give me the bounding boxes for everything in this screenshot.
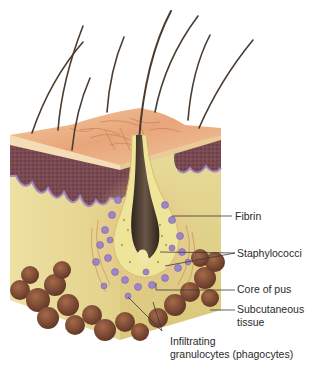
label-subcutaneous-line1: Subcutaneous — [237, 303, 304, 315]
label-infiltrating-line1: Infiltrating — [170, 335, 216, 347]
label-infiltrating-line2: granulocytes (phagocytes) — [170, 348, 293, 360]
label-core-of-pus: Core of pus — [237, 283, 291, 295]
label-subcutaneous-line2: tissue — [237, 316, 264, 328]
label-fibrin: Fibrin — [235, 210, 261, 222]
label-staphylococci: Staphylococci — [237, 247, 302, 259]
